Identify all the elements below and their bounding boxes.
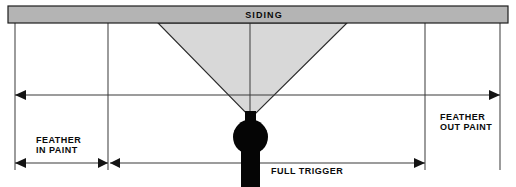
- feather-in-paint-label: FEATHER IN PAINT: [36, 135, 81, 155]
- full-trigger-dimension: [110, 158, 425, 168]
- feather-out-paint-line1: FEATHER: [440, 112, 485, 122]
- spray-gun: [233, 111, 268, 187]
- spray-gun-handle: [241, 148, 260, 187]
- feather-in-paint-line2: IN PAINT: [36, 145, 78, 155]
- feather-in-dimension: [15, 158, 108, 168]
- full-trigger-label: FULL TRIGGER: [271, 166, 343, 176]
- spray-pattern-cone: [158, 23, 347, 118]
- feather-out-paint-label: FEATHER OUT PAINT: [440, 112, 492, 132]
- feather-in-paint-line1: FEATHER: [36, 135, 81, 145]
- arrow-left-full-trigger: [110, 158, 120, 168]
- arrow-right-total-coverage: [489, 90, 500, 100]
- siding-label: SIDING: [245, 10, 283, 20]
- arrow-right-full-trigger: [414, 158, 425, 168]
- arrow-left-total-coverage: [15, 90, 26, 100]
- feather-out-paint-line2: OUT PAINT: [440, 122, 492, 132]
- spray-painting-diagram: SIDING FEATHER IN PAINT FEATHER OUT PAIN…: [0, 0, 516, 187]
- arrow-right-feather-in: [98, 158, 108, 168]
- arrow-left-feather-in: [15, 158, 26, 168]
- diagram-canvas: SIDING FEATHER IN PAINT FEATHER OUT PAIN…: [0, 0, 516, 187]
